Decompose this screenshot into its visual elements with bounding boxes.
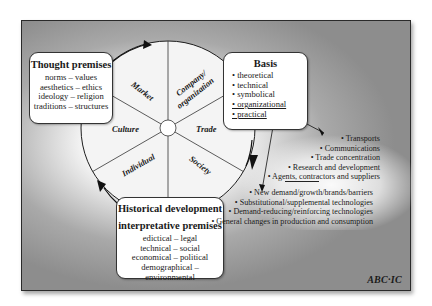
effect-item: • Transports bbox=[268, 134, 380, 144]
historical-title-line2: interpretative premises bbox=[117, 220, 223, 232]
effect-item: • Trade concentration bbox=[268, 153, 380, 163]
thought-premise: traditions – structures bbox=[30, 102, 112, 112]
segment-trade: Trade bbox=[196, 124, 216, 134]
historical-premise: demographical – environmental bbox=[117, 263, 223, 282]
abcic-logo: ABC·IC bbox=[367, 274, 402, 285]
practical-effects-list: • New demand/growth/brands/barriers • Su… bbox=[211, 188, 373, 226]
effect-item: • Demand-reducing/reinforcing technologi… bbox=[211, 207, 373, 217]
thought-premises-title: Thought premises bbox=[30, 59, 112, 71]
effect-item: • General changes in production and cons… bbox=[211, 217, 373, 227]
effect-item: • New demand/growth/brands/barriers bbox=[211, 188, 373, 198]
effect-item: • Substitutional/supplemental technologi… bbox=[211, 198, 373, 208]
organizational-effects-list: • Transports • Communications • Trade co… bbox=[268, 134, 380, 182]
basis-item-practical: • practical bbox=[224, 110, 307, 120]
effect-item: • Research and development bbox=[268, 163, 380, 173]
thought-premises-box: Thought premises norms – values aestheti… bbox=[29, 52, 113, 124]
basis-box: Basis • theoretical • technical • symbol… bbox=[223, 52, 308, 130]
segment-culture: Culture bbox=[112, 124, 139, 134]
wheel-hub bbox=[160, 120, 176, 136]
list-divider bbox=[285, 181, 319, 182]
effect-item: • Communications bbox=[268, 144, 380, 154]
historical-title-line1: Historical development bbox=[117, 203, 223, 215]
historical-premises-box: Historical development interpretative pr… bbox=[116, 197, 224, 279]
arrow-head-right bbox=[249, 155, 258, 170]
basis-title: Basis bbox=[224, 58, 307, 70]
